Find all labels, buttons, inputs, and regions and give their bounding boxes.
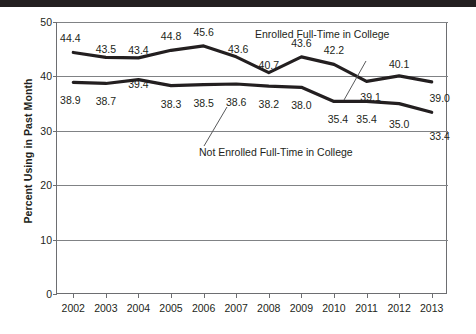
y-tick-label: 30 [40,125,52,137]
data-point-label: 39.0 [429,92,449,104]
line-enrolled-full-time [73,46,431,82]
y-tick-label: 50 [40,16,52,28]
data-point-label: 43.4 [128,44,148,56]
y-tick-label: 10 [40,234,52,246]
x-tick-label: 2011 [355,302,378,314]
x-tick-label: 2003 [94,302,117,314]
data-point-label: 40.7 [259,59,279,71]
data-point-label: 44.8 [161,30,181,42]
data-point-label: 38.0 [291,99,311,111]
data-point-label: 44.4 [60,32,80,44]
annotation-enrolled-full-time: Enrolled Full-Time in College [255,28,389,40]
data-point-label: 43.6 [228,43,248,55]
data-point-label: 35.4 [328,113,348,125]
x-tick-label: 2008 [257,302,280,314]
data-point-label: 42.2 [324,44,344,56]
data-point-label: 38.6 [226,96,246,108]
leader-line-not-enrolled [204,107,227,146]
annotation-not-enrolled-full-time: Not Enrolled Full-Time in College [199,146,353,158]
x-tick-label: 2012 [387,302,410,314]
data-point-label: 40.1 [389,58,409,70]
data-point-label: 45.6 [193,26,213,38]
line-chart: Percent Using in Past Month 01020304050 … [0,0,476,334]
x-tick-label: 2007 [225,302,248,314]
data-point-label: 38.2 [259,98,279,110]
x-tick-label: 2004 [127,302,150,314]
data-point-label: 43.5 [96,43,116,55]
y-tick-label: 20 [40,179,52,191]
y-tick-mark [53,294,57,295]
x-tick-label: 2006 [192,302,215,314]
data-point-label: 38.5 [193,97,213,109]
x-tick-label: 2009 [290,302,313,314]
x-tick-label: 2013 [420,302,443,314]
data-point-label: 39.4 [128,78,148,90]
x-tick-label: 2002 [62,302,85,314]
y-tick-label: 40 [40,70,52,82]
plot-area: 01020304050 2002200320042005200620072008… [56,22,447,294]
data-point-label: 38.9 [60,94,80,106]
x-tick-label: 2010 [322,302,345,314]
y-axis-title: Percent Using in Past Month [22,41,34,261]
data-point-label: 38.7 [96,95,116,107]
data-point-label: 35.4 [356,113,376,125]
data-point-label: 33.4 [429,130,449,142]
data-point-label: 35.0 [389,118,409,130]
y-tick-label: 0 [46,288,52,300]
x-tick-label: 2005 [159,302,182,314]
data-point-label: 39.1 [360,91,380,103]
data-point-label: 38.3 [161,98,181,110]
